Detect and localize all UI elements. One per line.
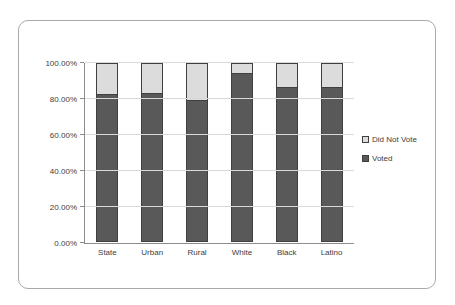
legend-label: Voted (372, 154, 392, 163)
stacked-bar-black (276, 63, 298, 243)
segment-voted (276, 87, 298, 242)
gridline (85, 134, 354, 135)
bar-slot (219, 63, 264, 243)
stacked-bar-latino (321, 63, 343, 243)
gridline (85, 170, 354, 171)
legend-swatch-icon (362, 136, 369, 143)
x-axis-category-label: Black (264, 248, 309, 257)
chart-frame[interactable]: StateUrbanRuralWhiteBlackLatino 0.00%20.… (18, 20, 436, 289)
y-axis-tick (80, 170, 84, 171)
x-axis-category-label: State (85, 248, 130, 257)
gridline (85, 206, 354, 207)
y-axis-tick (80, 134, 84, 135)
segment-did-not-vote (321, 63, 343, 88)
y-axis-tick-label: 60.00% (25, 131, 77, 140)
bar-slot (130, 63, 175, 243)
y-axis-tick (80, 98, 84, 99)
legend-swatch-icon (362, 155, 369, 162)
x-axis-category-label: Latino (309, 248, 354, 257)
bar-slot (309, 63, 354, 243)
x-axis-labels: StateUrbanRuralWhiteBlackLatino (85, 243, 354, 257)
y-axis-tick-label: 20.00% (25, 203, 77, 212)
stacked-bar-urban (141, 63, 163, 243)
bar-slot (175, 63, 220, 243)
legend-entry: Did Not Vote (362, 135, 417, 144)
y-axis-tick-label: 40.00% (25, 167, 77, 176)
y-axis-tick (80, 206, 84, 207)
segment-did-not-vote (276, 63, 298, 88)
segment-did-not-vote (186, 63, 208, 101)
bars-row (85, 63, 354, 243)
stacked-bar-white (231, 63, 253, 243)
x-axis-category-label: Rural (175, 248, 220, 257)
bar-slot (85, 63, 130, 243)
stacked-bar-state (96, 63, 118, 243)
y-axis-tick-label: 100.00% (25, 59, 77, 68)
segment-voted (141, 93, 163, 242)
bar-slot (264, 63, 309, 243)
x-axis-category-label: White (219, 248, 264, 257)
y-axis-tick-label: 0.00% (25, 239, 77, 248)
segment-did-not-vote (96, 63, 118, 95)
y-axis-tick (80, 62, 84, 63)
legend: Did Not VoteVoted (362, 135, 417, 173)
plot-area: StateUrbanRuralWhiteBlackLatino 0.00%20.… (84, 63, 354, 244)
y-axis-tick-label: 80.00% (25, 95, 77, 104)
gridline (85, 62, 354, 63)
legend-label: Did Not Vote (372, 135, 417, 144)
y-axis-tick (80, 242, 84, 243)
segment-voted (321, 87, 343, 242)
stacked-bar-rural (186, 63, 208, 243)
segment-did-not-vote (141, 63, 163, 94)
gridline (85, 98, 354, 99)
segment-voted (96, 94, 118, 242)
legend-entry: Voted (362, 154, 417, 163)
x-axis-category-label: Urban (130, 248, 175, 257)
